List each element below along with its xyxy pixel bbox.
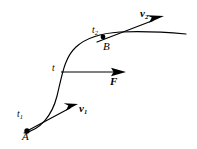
velocity-1-vector <box>27 103 78 131</box>
label-velocity-2-subscript: 2 <box>145 13 148 20</box>
label-point-b: B <box>103 41 110 52</box>
label-time-mid: t <box>52 64 55 74</box>
physics-trajectory-figure: t1 A t F v1 t2 B v2 <box>0 0 197 149</box>
label-point-a: A <box>22 131 29 142</box>
label-velocity-1-subscript: 1 <box>84 108 87 115</box>
figure-canvas <box>0 0 197 149</box>
label-time-end-subscript: 2 <box>95 29 98 36</box>
label-time-end: t2 <box>92 26 98 36</box>
velocity-1-shaft <box>27 108 70 131</box>
velocity-1-arrowhead <box>64 103 78 110</box>
velocity-2-vector <box>97 15 164 42</box>
label-time-start: t1 <box>17 110 23 120</box>
label-velocity-2: v2 <box>140 8 148 19</box>
label-velocity-1: v1 <box>79 103 87 114</box>
point-b-dot <box>101 35 106 40</box>
label-time-start-subscript: 1 <box>20 113 23 120</box>
label-force: F <box>110 76 117 87</box>
